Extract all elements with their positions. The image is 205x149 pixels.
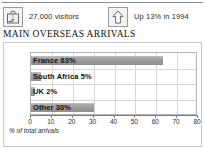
x-tick-label-40: 40 [110, 118, 117, 125]
bar-label-south-africa: South Africa 5% [33, 72, 92, 81]
up-arrow-icon [108, 7, 128, 27]
rowline-2 [31, 84, 196, 85]
stat-increase-label: Up 13% in 1994 [134, 12, 189, 21]
x-tick-label-20: 20 [68, 118, 75, 125]
bar-label-other: Other 30% [33, 103, 71, 112]
chart-container: France 63% South Africa 5% UK 2% Other 3… [3, 42, 202, 147]
stat-increase: Up 13% in 1994 [108, 5, 189, 28]
x-tick-label-60: 60 [152, 118, 159, 125]
plot-area: France 63% South Africa 5% UK 2% Other 3… [30, 52, 197, 115]
rowline-1 [31, 69, 196, 70]
x-tick-label-80: 80 [193, 118, 200, 125]
stat-visitors: 27,000 visitors [3, 5, 79, 28]
bar-label-france: France 63% [33, 56, 76, 65]
stats-strip: 27,000 visitors Up 13% in 1994 [0, 5, 205, 28]
page-title: MAIN OVERSEAS ARRIVALS [3, 29, 136, 39]
suitcase-icon [3, 7, 23, 27]
x-axis-caption: % of total arrivals [9, 127, 59, 134]
x-tick-label-10: 10 [47, 118, 54, 125]
x-tick-label-70: 70 [173, 118, 180, 125]
plot-wrap: France 63% South Africa 5% UK 2% Other 3… [30, 52, 197, 115]
bar-label-uk: UK 2% [33, 87, 57, 96]
rowline-3 [31, 100, 196, 101]
x-tick-label-50: 50 [131, 118, 138, 125]
x-tick-label-0: 0 [28, 118, 32, 125]
x-tick-label-30: 30 [89, 118, 96, 125]
top-divider [2, 2, 203, 3]
stat-visitors-label: 27,000 visitors [29, 12, 79, 21]
